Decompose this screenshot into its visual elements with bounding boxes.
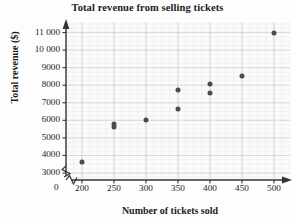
x-tick-label: 300 [131,183,161,193]
x-tick-label: 450 [227,183,257,193]
x-tick-label: 350 [163,183,193,193]
x-tick-label: 400 [195,183,225,193]
x-tick-label: 500 [259,183,289,193]
x-tick-label: 200 [67,183,97,193]
origin-label: 0 [54,182,59,192]
x-axis-tick-labels: 200250300350400450500 [0,0,295,223]
x-tick-label: 250 [99,183,129,193]
chart-figure: Total revenue from selling tickets Total… [0,0,295,223]
